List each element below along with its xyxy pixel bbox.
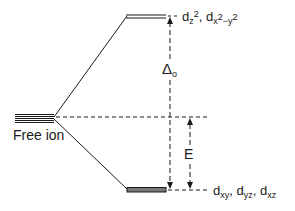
orbital-dx2-y2: dx2−y2 bbox=[206, 9, 238, 24]
lower-level bbox=[127, 188, 166, 193]
lower-connector bbox=[54, 119, 128, 190]
splitting-diagram bbox=[0, 0, 295, 211]
orbital-dxz: dxz bbox=[260, 183, 276, 198]
orbital-dxy: dxy bbox=[213, 183, 229, 198]
lower-level-label: dxy, dyz, dxz bbox=[213, 183, 276, 200]
energy-gap-label: E bbox=[184, 146, 193, 162]
free-ion-label: Free ion bbox=[13, 127, 64, 143]
delta-o-arrow bbox=[167, 17, 173, 189]
orbital-dyz: dyz bbox=[236, 183, 252, 198]
upper-connector bbox=[54, 16, 127, 117]
orbital-dz2: dz2 bbox=[182, 9, 199, 24]
free-ion-levels bbox=[15, 115, 54, 123]
upper-level bbox=[126, 15, 166, 18]
delta-o-label: Δo bbox=[162, 60, 177, 79]
upper-level-label: dz2, dx2−y2 bbox=[182, 9, 238, 26]
